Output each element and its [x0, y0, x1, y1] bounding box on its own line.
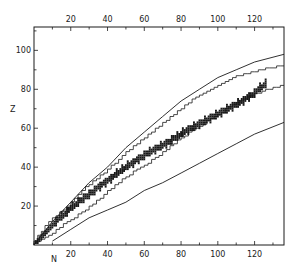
stable-nuclide [72, 203, 74, 205]
stable-nuclide [187, 125, 189, 127]
stable-nuclide [70, 207, 72, 209]
stable-nuclide [94, 186, 96, 188]
stable-nuclide [101, 182, 103, 184]
stable-nuclide [204, 119, 206, 121]
stable-nuclide [140, 158, 142, 160]
stable-nuclide [81, 201, 83, 203]
stable-nuclide [182, 129, 184, 131]
stable-nuclide [178, 133, 180, 135]
stable-nuclide [162, 145, 164, 147]
stable-nuclide [142, 154, 144, 156]
stable-nuclide [226, 110, 228, 112]
stable-nuclide [202, 121, 204, 123]
stable-nuclide [79, 199, 81, 201]
stable-nuclide [85, 197, 87, 199]
y-tick-label: 20 [21, 202, 31, 211]
stable-nuclide [121, 164, 123, 166]
stable-nuclide [241, 102, 243, 104]
stable-nuclide [40, 234, 42, 236]
stable-nuclide [180, 135, 182, 137]
y-tick-label: 80 [21, 85, 31, 94]
stable-nuclide [74, 207, 76, 209]
stable-nuclide [176, 131, 178, 133]
stable-nuclide [265, 86, 267, 88]
stable-nuclide [171, 137, 173, 139]
y-tick-label: 60 [21, 124, 31, 133]
stable-nuclide [131, 164, 133, 166]
stable-nuclide [158, 149, 160, 151]
stable-nuclide [145, 153, 147, 155]
stable-nuclide [42, 236, 44, 238]
x-tick-label-top: 120 [247, 15, 262, 24]
stable-nuclide [197, 121, 199, 123]
stable-nuclide [90, 193, 92, 195]
stable-nuclide [83, 193, 85, 195]
stable-nuclide [248, 92, 250, 94]
stable-nuclide [211, 116, 213, 118]
stable-nuclide [127, 162, 129, 164]
stable-nuclide [85, 195, 87, 197]
stable-nuclide [263, 84, 265, 86]
stable-nuclide [116, 174, 118, 176]
stable-nuclide [116, 168, 118, 170]
stable-nuclide [219, 110, 221, 112]
stable-nuclide [226, 104, 228, 106]
stable-nuclide [254, 90, 256, 92]
x-tick-label-bottom: 100 [210, 250, 225, 259]
stable-nuclide [85, 193, 87, 195]
stable-nuclide [265, 81, 267, 83]
stable-nuclide [81, 199, 83, 201]
stable-nuclide [44, 230, 46, 232]
stable-nuclide [256, 90, 258, 92]
stable-nuclide [248, 100, 250, 102]
x-tick-label-top: 40 [102, 15, 112, 24]
x-axis-label: N [51, 255, 57, 264]
stable-nuclide [156, 145, 158, 147]
stable-nuclide [118, 174, 120, 176]
stable-nuclide [86, 195, 88, 197]
stable-nuclide [261, 86, 263, 88]
stable-nuclide [99, 182, 101, 184]
nuclide-chart: 204060801001202040608010012020406080100 … [0, 0, 299, 274]
stable-nuclide [243, 96, 245, 98]
stable-nuclide [204, 118, 206, 120]
stable-nuclide [138, 156, 140, 158]
x-tick-label-bottom: 40 [102, 250, 112, 259]
stable-nuclide [176, 135, 178, 137]
stable-nuclide [134, 158, 136, 160]
stable-nuclide [167, 139, 169, 141]
stable-nuclide [265, 84, 267, 86]
stable-nuclide [169, 143, 171, 145]
stable-nuclide [226, 112, 228, 114]
stable-nuclide [215, 118, 217, 120]
stable-nuclide [83, 195, 85, 197]
stable-nuclide [259, 82, 261, 84]
stable-nuclide [70, 209, 72, 211]
stable-nuclide [215, 110, 217, 112]
y-tick-label: 40 [21, 163, 31, 172]
stable-nuclide [105, 178, 107, 180]
stable-nuclide [167, 141, 169, 143]
stable-nuclide [261, 84, 263, 86]
stable-nuclide [110, 180, 112, 182]
stable-nuclide [119, 170, 121, 172]
stable-nuclide [99, 190, 101, 192]
stable-nuclide [213, 114, 215, 116]
stable-nuclide [99, 184, 101, 186]
stable-nuclide [37, 238, 39, 240]
stable-nuclide [53, 225, 55, 227]
stable-nuclide [132, 166, 134, 168]
stable-nuclide [77, 199, 79, 201]
stable-nuclide [132, 164, 134, 166]
stable-nuclide [160, 141, 162, 143]
stable-nuclide [197, 123, 199, 125]
stable-nuclide [90, 191, 92, 193]
stable-nuclide [164, 143, 166, 145]
stable-nuclide [74, 205, 76, 207]
stable-nuclide [200, 123, 202, 125]
stable-nuclide [202, 119, 204, 121]
stable-nuclide [83, 199, 85, 201]
stable-nuclide [257, 90, 259, 92]
stable-nuclide [64, 215, 66, 217]
stable-nuclide [88, 193, 90, 195]
